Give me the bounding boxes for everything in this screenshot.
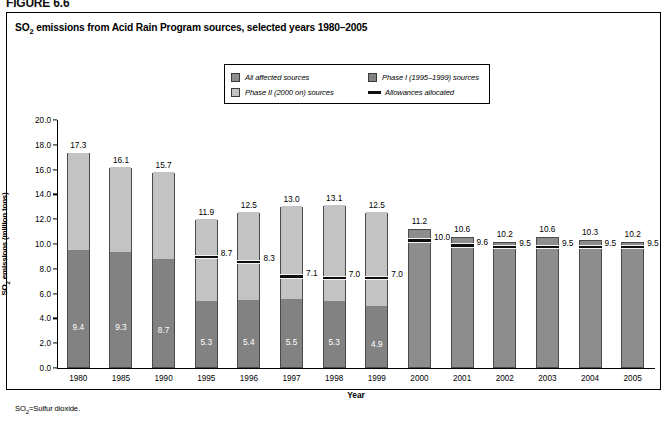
- dark-gray-swatch-icon: [368, 73, 377, 82]
- y-axis-tick-label: 14.0: [0, 190, 57, 199]
- allowance-line-1996: [237, 260, 260, 265]
- allowance-line-2003: [536, 245, 559, 250]
- allowance-line-2002: [493, 245, 516, 250]
- bar-2000[interactable]: 10.011.2: [408, 229, 431, 368]
- plot-area: 9.417.39.316.18.715.75.38.711.95.48.312.…: [57, 120, 654, 368]
- bar-1999[interactable]: 4.97.012.5: [365, 213, 388, 368]
- y-axis-tick-mark: [53, 219, 57, 220]
- bar-segment-phase-i: [196, 301, 217, 367]
- bar-total-value-label: 12.5: [369, 200, 385, 210]
- bar-2004[interactable]: 9.510.3: [579, 240, 602, 368]
- y-axis-tick-mark: [53, 169, 57, 170]
- allowance-value-label: 8.3: [263, 253, 275, 263]
- bar-segment-all-affected: [537, 238, 558, 367]
- y-axis-tick-mark: [53, 268, 57, 269]
- legend-row-2: Phase II (2000 on) sources Allowances al…: [231, 85, 483, 100]
- footnote-rest: =Sulfur dioxide.: [29, 404, 80, 413]
- bar-total-value-label: 10.6: [454, 224, 470, 234]
- bar-segment-phase-ii: [68, 153, 89, 251]
- x-axis-line: [57, 368, 655, 369]
- allowance-value-label: 7.1: [306, 268, 318, 278]
- y-axis-tick-label: 8.0: [0, 264, 57, 273]
- bar-total-value-label: 13.0: [283, 194, 299, 204]
- bar-1997[interactable]: 5.57.113.0: [280, 207, 303, 368]
- y-axis-tick-mark: [53, 343, 57, 344]
- legend-label-allowances-allocated: Allowances allocated: [385, 88, 454, 97]
- y-axis-tick-label: 2.0: [0, 339, 57, 348]
- allowance-value-label: 7.0: [391, 269, 403, 279]
- allowance-line-1997: [280, 274, 303, 279]
- legend-item-phase-i-sources: Phase I (1995–1999) sources: [368, 73, 479, 82]
- bar-segment-phase-ii: [238, 212, 259, 300]
- bar-segment-all-affected: [409, 230, 430, 367]
- x-axis-tick-label-2005: 2005: [624, 374, 642, 383]
- bar-total-value-label: 16.1: [113, 155, 129, 165]
- black-line-swatch-icon: [368, 91, 381, 94]
- legend-row-1: All affected sources Phase I (1995–1999)…: [231, 70, 483, 85]
- x-axis-tick-label-2004: 2004: [581, 374, 599, 383]
- bar-segment-all-affected: [580, 241, 601, 367]
- chart-title-prefix: SO: [15, 22, 29, 33]
- bar-1996[interactable]: 5.48.312.5: [237, 213, 260, 368]
- bar-segment-phase-i: [238, 300, 259, 367]
- bar-1995[interactable]: 5.38.711.9: [195, 220, 218, 368]
- bar-2002[interactable]: 9.510.2: [493, 242, 516, 368]
- y-axis-tick-label: 6.0: [0, 289, 57, 298]
- bar-2005[interactable]: 9.510.2: [621, 242, 644, 368]
- bar-total-value-label: 10.6: [539, 224, 555, 234]
- chart-title-rest: emissions from Acid Rain Program sources…: [33, 22, 367, 33]
- bar-segment-phase-ii: [196, 219, 217, 301]
- bar-2003[interactable]: 9.510.6: [536, 237, 559, 368]
- bar-total-value-label: 13.1: [326, 193, 342, 203]
- bar-phase-i-value-label: 8.7: [158, 325, 170, 335]
- x-axis-tick-label-1999: 1999: [368, 374, 386, 383]
- y-axis-tick-label: 12.0: [0, 215, 57, 224]
- y-axis-tick-label: 10.0: [0, 240, 57, 249]
- bar-segment-all-affected: [452, 238, 473, 367]
- bar-segment-phase-ii: [110, 167, 131, 251]
- bar-1985[interactable]: 9.316.1: [109, 168, 132, 368]
- allowance-line-1999: [365, 276, 388, 281]
- x-axis-tick-label-2002: 2002: [496, 374, 514, 383]
- allowance-line-2000: [408, 238, 431, 243]
- bar-segment-phase-i: [366, 306, 387, 367]
- x-axis-tick-label-1997: 1997: [282, 374, 300, 383]
- legend-label-all-affected-sources: All affected sources: [245, 73, 309, 82]
- legend-item-all-affected-sources: All affected sources: [231, 73, 368, 82]
- bar-segment-phase-i: [324, 301, 345, 367]
- bar-1980[interactable]: 9.417.3: [67, 153, 90, 368]
- bar-phase-i-value-label: 9.4: [73, 322, 85, 332]
- legend-item-allowances-allocated: Allowances allocated: [368, 88, 454, 97]
- y-axis-tick-mark: [53, 119, 57, 120]
- allowance-line-2005: [621, 245, 644, 250]
- y-axis-tick-mark: [53, 243, 57, 244]
- allowance-line-2004: [579, 245, 602, 250]
- bar-phase-i-value-label: 5.5: [286, 337, 298, 347]
- x-axis-tick-label-2003: 2003: [538, 374, 556, 383]
- bar-1990[interactable]: 8.715.7: [152, 173, 175, 368]
- x-axis-tick-label-1990: 1990: [154, 374, 172, 383]
- bar-1998[interactable]: 5.37.013.1: [323, 206, 346, 368]
- bar-phase-i-value-label: 4.9: [371, 339, 383, 349]
- y-axis-tick-mark: [53, 367, 57, 368]
- bar-total-value-label: 11.2: [412, 216, 428, 226]
- legend-label-phase-i-sources: Phase I (1995–1999) sources: [382, 73, 479, 82]
- footnote-prefix: SO: [15, 404, 26, 413]
- bar-segment-all-affected: [622, 243, 643, 367]
- y-axis-tick-label: 18.0: [0, 140, 57, 149]
- bar-2001[interactable]: 9.610.6: [451, 237, 474, 368]
- x-axis-tick-label-2001: 2001: [453, 374, 471, 383]
- bar-phase-i-value-label: 5.4: [243, 337, 255, 347]
- y-axis-tick-label: 0.0: [0, 364, 57, 373]
- legend-label-phase-ii-sources: Phase II (2000 on) sources: [245, 88, 334, 97]
- bar-total-value-label: 15.7: [156, 160, 172, 170]
- bar-segment-phase-i: [281, 299, 302, 367]
- bar-segment-phase-ii: [153, 172, 174, 259]
- y-axis-tick-mark: [53, 144, 57, 145]
- allowance-value-label: 10.0: [434, 232, 450, 242]
- bar-total-value-label: 17.3: [70, 140, 86, 150]
- allowance-line-1998: [323, 276, 346, 281]
- allowance-value-label: 7.0: [349, 269, 361, 279]
- bar-total-value-label: 10.2: [625, 229, 641, 239]
- medium-gray-swatch-icon: [231, 73, 240, 82]
